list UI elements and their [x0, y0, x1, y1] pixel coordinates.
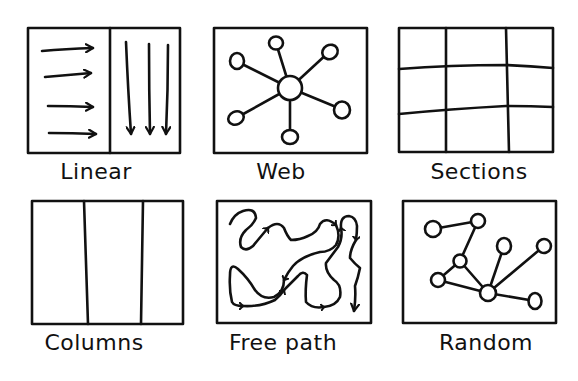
panel-free-path: [217, 201, 371, 323]
label-web: Web: [191, 159, 371, 185]
columns-frame: [32, 201, 183, 324]
label-sections: Sections: [389, 159, 569, 185]
label-free-path: Free path: [193, 330, 373, 356]
grid-icon: [399, 28, 553, 152]
panel-random: [403, 201, 556, 323]
random-network-icon: [425, 214, 553, 309]
panel-sections: [399, 28, 553, 152]
label-random: Random: [396, 330, 576, 356]
columns-icon: [84, 201, 143, 324]
meandering-path-icon: [230, 210, 360, 311]
panel-linear: [28, 28, 180, 153]
sections-frame: [399, 28, 553, 152]
horizontal-arrows-icon: [42, 48, 96, 134]
panel-columns: [32, 201, 183, 324]
panel-web: [214, 28, 367, 153]
label-linear: Linear: [6, 159, 186, 185]
hub-and-spoke-icon: [226, 37, 350, 145]
layout-patterns-diagram: [0, 0, 578, 381]
label-columns: Columns: [4, 330, 184, 356]
vertical-arrows-icon: [126, 42, 168, 134]
